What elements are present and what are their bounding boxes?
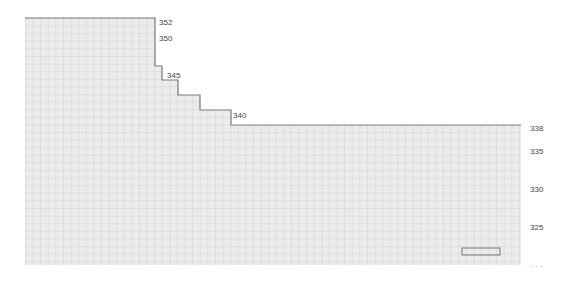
row-label: 350	[159, 35, 172, 43]
row-label: 335	[530, 148, 543, 156]
row-label: 325	[530, 224, 543, 232]
cut-off-label: · · ·	[530, 263, 542, 271]
grid-area	[0, 0, 565, 283]
row-label: 338	[530, 125, 543, 133]
knitting-chart	[0, 0, 565, 283]
row-label: 345	[167, 72, 180, 80]
row-label: 352	[159, 19, 172, 27]
row-label: 330	[530, 186, 543, 194]
row-label: 340	[233, 112, 246, 120]
